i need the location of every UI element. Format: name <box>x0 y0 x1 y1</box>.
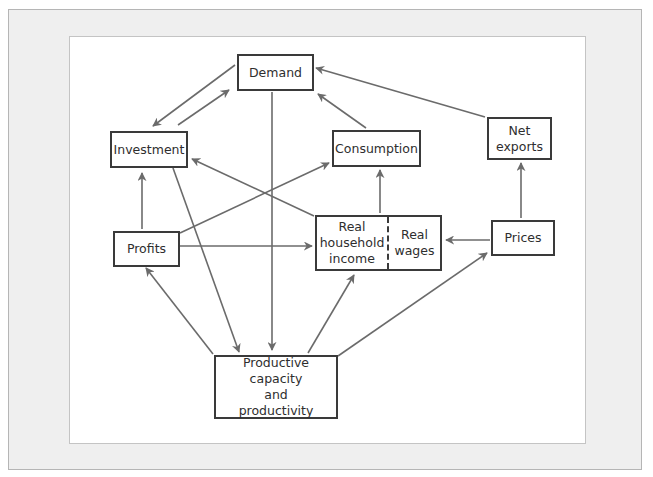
real-household-income-line1: Real <box>339 219 366 235</box>
edge-investment-to-demand <box>178 90 229 125</box>
productive-capacity-line2: and <box>264 387 288 403</box>
edge-productive-capacity-to-real-income <box>308 275 354 353</box>
productive-capacity-line1: Productive capacity <box>216 355 336 387</box>
edge-profits-to-consumption <box>180 163 329 233</box>
net-exports-label-line2: exports <box>496 139 543 155</box>
real-wages-line2: wages <box>394 243 434 259</box>
productive-capacity-line3: productivity <box>239 403 314 419</box>
real-wages-section: Real wages <box>389 217 440 269</box>
edge-demand-to-investment <box>153 65 235 126</box>
prices-label: Prices <box>504 230 541 246</box>
consumption-label: Consumption <box>335 141 418 157</box>
demand-label: Demand <box>249 65 302 81</box>
edge-productive-capacity-to-profits <box>146 268 213 354</box>
demand-box: Demand <box>237 54 314 91</box>
net-exports-label-line1: Net <box>509 123 531 139</box>
edge-real-income-to-investment <box>192 159 314 216</box>
profits-label: Profits <box>127 241 166 257</box>
investment-box: Investment <box>110 131 188 168</box>
real-household-income-line3: income <box>329 251 375 267</box>
prices-box: Prices <box>491 220 555 256</box>
real-wages-line1: Real <box>401 227 428 243</box>
real-household-income-section: Real household income <box>317 217 389 269</box>
consumption-box: Consumption <box>332 130 421 167</box>
profits-box: Profits <box>113 231 180 267</box>
edge-consumption-to-demand <box>318 94 366 128</box>
real-income-wages-box: Real household income Real wages <box>315 215 442 271</box>
real-household-income-line2: household <box>320 235 385 251</box>
edge-investment-to-productive-capacity <box>173 168 239 352</box>
net-exports-box: Net exports <box>487 117 552 160</box>
investment-label: Investment <box>114 142 185 158</box>
productive-capacity-box: Productive capacity and productivity <box>214 355 338 419</box>
